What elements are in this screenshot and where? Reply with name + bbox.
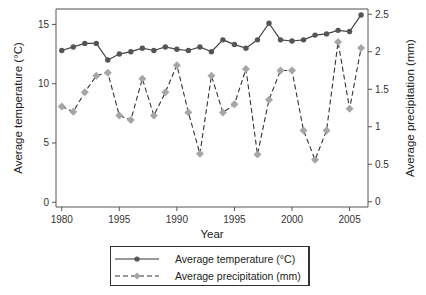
circle-marker [140,45,145,50]
diamond-marker [69,108,77,116]
circle-marker [347,29,352,34]
diamond-marker [81,88,89,96]
y-tick-label: 10 [38,78,50,89]
x-tick-label: 1995 [223,214,246,225]
y-tick-label: 5 [43,137,49,148]
precipitation-series [58,38,365,164]
circle-marker [289,38,294,43]
legend-label-temperature: Average temperature (°C) [175,253,295,265]
y2-tick-label: 1 [375,121,381,132]
x-axis-title: Year [200,228,223,240]
diamond-marker [323,127,331,135]
diamond-marker [127,116,135,124]
dashed-line-diamond-icon [115,267,159,285]
x-tick-label: 2000 [281,214,304,225]
diamond-marker [150,112,158,120]
x-tick-label: 1990 [166,214,189,225]
circle-marker [278,37,283,42]
circle-marker [186,48,191,53]
circle-marker [163,44,168,49]
legend-item-precipitation: Average precipitation (mm) [111,267,301,285]
diamond-marker [253,151,261,159]
circle-marker [105,57,110,62]
diamond-marker [115,112,123,120]
diamond-marker [311,156,319,164]
circle-marker [324,31,329,36]
plot-frame [56,9,368,207]
diamond-marker [58,103,66,111]
circle-marker [358,12,363,17]
circle-marker [301,37,306,42]
circle-marker [335,28,340,33]
diamond-marker [196,150,204,158]
diamond-marker [242,65,250,73]
solid-line-circle-icon [115,250,159,268]
x-axis: 198019951990199520002005 [51,207,362,225]
circle-marker [94,41,99,46]
y2-tick-label: 2 [375,46,381,57]
legend-item-temperature: Average temperature (°C) [111,250,295,268]
circle-marker [59,48,64,53]
temperature-series [59,12,364,62]
y-tick-label: 15 [38,19,50,30]
y2-tick-label: 2.5 [375,9,389,20]
diamond-marker [334,38,342,46]
y-tick-label: 0 [43,197,49,208]
x-tick-label: 1995 [108,214,131,225]
y-axis-title: Average temperature (°C) [12,42,24,174]
circle-marker [174,47,179,52]
diamond-marker [184,109,192,117]
legend-label-precipitation: Average precipitation (mm) [175,270,301,282]
diamond-marker [219,109,227,117]
diamond-marker [288,67,296,75]
x-tick-label: 2005 [338,214,361,225]
circle-marker [232,42,237,47]
circle-marker [82,41,87,46]
y2-tick-label: 1.5 [375,84,389,95]
y2-tick-label: 0.5 [375,159,389,170]
diamond-marker [207,72,215,80]
diamond-marker [161,88,169,96]
diamond-marker [265,96,273,104]
diamond-marker [138,75,146,83]
right-y-axis: 00.511.522.5 [368,9,389,208]
diamond-marker [230,100,238,108]
circle-marker [151,48,156,53]
circle-marker [312,32,317,37]
diamond-marker [346,105,354,113]
circle-marker [209,49,214,54]
diamond-marker [277,67,285,75]
diamond-marker [357,44,365,52]
circle-marker [117,51,122,56]
circle-marker [266,21,271,26]
circle-marker [220,37,225,42]
diamond-marker [92,72,100,80]
x-tick-label: 1980 [51,214,74,225]
circle-marker [197,44,202,49]
left-y-axis: 051015 [38,19,56,208]
y2-tick-label: 0 [375,196,381,207]
circle-marker [255,37,260,42]
chart-plot: 051015 00.511.522.5 19801995199019952000… [0,0,426,245]
diamond-marker [173,61,181,69]
legend: Average temperature (°C) Average precipi… [110,246,310,286]
diamond-marker [300,127,308,135]
circle-marker [128,49,133,54]
circle-marker [243,45,248,50]
circle-marker [71,44,76,49]
y2-axis-title: Average precipitation (mm) [404,39,416,177]
diamond-marker [104,69,112,77]
